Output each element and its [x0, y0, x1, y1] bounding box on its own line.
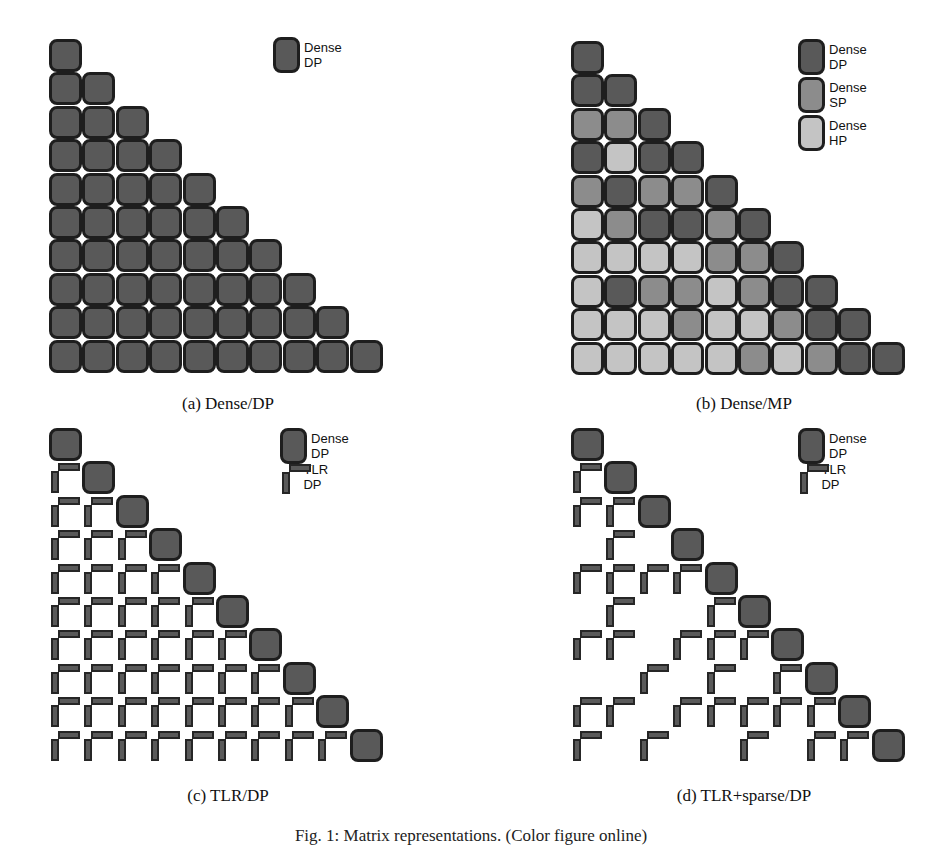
tlr-u-factor	[258, 664, 280, 672]
tlr-u-factor	[613, 564, 635, 572]
tlr-u-factor	[158, 664, 180, 672]
subfigure-caption: (b) Dense/MP	[594, 394, 894, 414]
tlr-u-factor	[192, 630, 214, 638]
legend-label: Dense SP	[829, 80, 873, 110]
tlr-v-factor	[251, 739, 259, 761]
dense-tile-dp	[183, 340, 216, 373]
dense-tile-dp	[49, 106, 82, 139]
tlr-u-factor	[613, 497, 635, 505]
tlr-u-factor	[91, 597, 113, 605]
tlr-u-factor	[125, 731, 147, 739]
tlr-u-factor	[125, 597, 147, 605]
dense-tile-dp	[571, 41, 604, 74]
dense-tile-dp	[216, 595, 249, 628]
tlr-v-factor	[606, 538, 614, 560]
dense-tile-hp	[705, 308, 738, 341]
tlr-v-factor	[640, 572, 648, 594]
dense-tile-dp	[82, 106, 115, 139]
dense-tile-dp	[149, 306, 182, 339]
tlr-u-factor	[225, 664, 247, 672]
dense-tile-sp	[671, 275, 704, 308]
tlr-u-factor	[747, 630, 769, 638]
tlr-u-factor	[325, 731, 347, 739]
dense-tile-hp	[571, 308, 604, 341]
dense-tile-dp	[838, 695, 871, 728]
dense-tile-dp	[183, 206, 216, 239]
tlr-u-factor	[292, 697, 314, 705]
tlr-u-factor	[91, 564, 113, 572]
tlr-u-factor	[58, 497, 80, 505]
dense-tile-dp	[82, 72, 115, 105]
dense-tile-hp	[638, 308, 671, 341]
dense-tile-dp	[216, 206, 249, 239]
dense-tile-dp	[216, 273, 249, 306]
dense-tile-dp	[116, 106, 149, 139]
tlr-u-factor	[292, 731, 314, 739]
tlr-u-factor	[125, 664, 147, 672]
dense-tile-dp	[116, 340, 149, 373]
tlr-v-factor	[673, 572, 681, 594]
tlr-u-factor	[58, 697, 80, 705]
tlr-v-factor	[573, 505, 581, 527]
dense-tile-dp	[838, 308, 871, 341]
tlr-v-factor	[606, 705, 614, 727]
tlr-v-factor	[673, 705, 681, 727]
dense-tile-dp	[872, 342, 905, 375]
tlr-v-factor	[185, 705, 193, 727]
tlr-v-factor	[251, 672, 259, 694]
tlr-u-factor	[647, 564, 669, 572]
tlr-v-factor	[51, 538, 59, 560]
dense-tile-dp	[638, 208, 671, 241]
dense-tile-dp	[738, 208, 771, 241]
tlr-legend-icon	[798, 462, 819, 492]
tlr-u-factor	[192, 664, 214, 672]
subfigure-caption: (d) TLR+sparse/DP	[594, 786, 894, 806]
dense-tile-sp	[705, 241, 738, 274]
dense-tile-dp	[771, 275, 804, 308]
tlr-v-factor	[606, 605, 614, 627]
tlr-v-factor	[151, 705, 159, 727]
dense-tile-hp	[671, 342, 704, 375]
tlr-v-factor	[84, 705, 92, 727]
tlr-u-factor	[158, 697, 180, 705]
dense-tile-hp	[638, 342, 671, 375]
dense-tile-dp	[604, 461, 637, 494]
tlr-u-factor	[158, 630, 180, 638]
dense-tile-dp	[149, 173, 182, 206]
dense-tile-dp	[49, 39, 82, 72]
dense-tile-dp	[805, 662, 838, 695]
tlr-v-factor	[807, 739, 815, 761]
dense-tile-dp	[183, 273, 216, 306]
tlr-v-factor	[318, 739, 326, 761]
legend-item: Dense SP	[798, 77, 874, 113]
tlr-u-factor	[58, 530, 80, 538]
tlr-u-factor	[780, 664, 802, 672]
tlr-u-factor	[91, 731, 113, 739]
legend-swatch-dp	[280, 428, 307, 464]
tlr-v-factor	[185, 672, 193, 694]
tlr-u-factor	[225, 630, 247, 638]
tlr-v-factor	[51, 705, 59, 727]
tlr-u-factor	[192, 697, 214, 705]
tlr-u-factor	[814, 731, 836, 739]
tlr-u-factor	[580, 630, 602, 638]
tlr-v-factor	[707, 672, 715, 694]
dense-tile-hp	[604, 342, 637, 375]
dense-tile-dp	[638, 108, 671, 141]
tlr-u-factor	[647, 664, 669, 672]
figure-caption: Fig. 1: Matrix representations. (Color f…	[0, 826, 942, 846]
subfigure-caption: (a) Dense/DP	[78, 394, 378, 414]
legend-label: Dense DP	[829, 42, 874, 72]
dense-tile-dp	[183, 562, 216, 595]
tlr-u-factor	[225, 697, 247, 705]
dense-tile-dp	[82, 273, 115, 306]
legend-item: Dense DP	[798, 428, 874, 464]
dense-tile-dp	[49, 273, 82, 306]
dense-tile-dp	[116, 206, 149, 239]
tlr-v-factor	[840, 739, 848, 761]
tlr-v-factor	[218, 705, 226, 727]
tlr-u-factor	[158, 731, 180, 739]
tlr-v-factor	[84, 605, 92, 627]
dense-tile-dp	[249, 273, 282, 306]
tlr-u-factor	[58, 664, 80, 672]
